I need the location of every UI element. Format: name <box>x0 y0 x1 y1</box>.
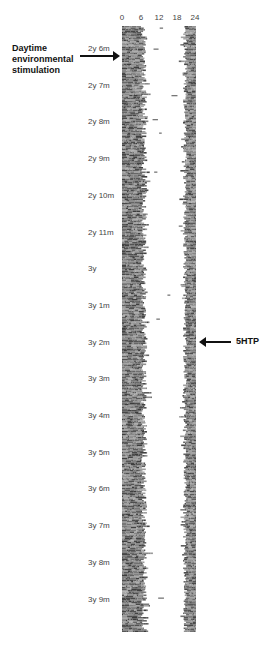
y-label: 3y 6m <box>88 484 110 493</box>
y-label: 2y 6m <box>88 44 110 53</box>
left-arrow-icon <box>205 341 231 343</box>
x-tick-24: 24 <box>191 13 200 22</box>
right-arrow-icon <box>80 55 114 57</box>
y-label: 3y 5m <box>88 447 110 456</box>
x-tick-12: 12 <box>155 13 164 22</box>
y-label: 3y 4m <box>88 411 110 420</box>
y-label: 3y 9m <box>88 594 110 603</box>
annotation-5htp-label: 5HTP <box>236 336 259 347</box>
y-label: 3y 1m <box>88 300 110 309</box>
annotation-daytime-label: Daytime environmental stimulation <box>12 43 74 76</box>
y-label: 2y 8m <box>88 117 110 126</box>
y-label: 3y 2m <box>88 337 110 346</box>
annotation-line: stimulation <box>12 65 74 76</box>
y-label: 3y 7m <box>88 521 110 530</box>
y-label: 2y 9m <box>88 154 110 163</box>
x-tick-18: 18 <box>173 13 182 22</box>
y-label: 3y <box>88 264 96 273</box>
y-label: 2y 10m <box>88 190 114 199</box>
annotation-line: environmental <box>12 54 74 65</box>
annotation-line: Daytime <box>12 43 74 54</box>
y-label: 2y 7m <box>88 80 110 89</box>
y-label: 3y 3m <box>88 374 110 383</box>
y-label: 2y 11m <box>88 227 114 236</box>
actogram-plot <box>122 26 198 632</box>
x-tick-6: 6 <box>139 13 143 22</box>
x-tick-0: 0 <box>120 13 124 22</box>
y-label: 3y 8m <box>88 557 110 566</box>
